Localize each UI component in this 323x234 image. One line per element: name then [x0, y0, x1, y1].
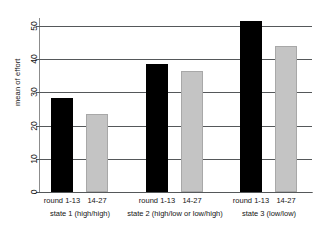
bar [275, 46, 297, 192]
x-tick-label-round: 14-27 [182, 196, 201, 205]
y-tick-label: 50 [30, 21, 39, 30]
plot-area: 01020304050 [40, 18, 312, 192]
x-group-label-state: state 3 (low/low) [242, 209, 296, 218]
bar [51, 98, 73, 192]
x-tick-label-round: round 1-13 [139, 196, 175, 205]
y-axis-title: mean of effort [13, 58, 22, 106]
x-group-label-state: state 1 (high/high) [50, 209, 110, 218]
gridline [40, 92, 312, 93]
y-tick-label: 10 [30, 154, 39, 163]
gridline [40, 192, 312, 193]
x-tick-label-round: round 1-13 [233, 196, 269, 205]
x-group-label-state: state 2 (high/low or low/high) [127, 209, 222, 218]
gridline [40, 59, 312, 60]
bar [146, 64, 168, 192]
bar [86, 114, 108, 192]
gridline [40, 126, 312, 127]
y-tick-label: 20 [30, 121, 39, 130]
bar [240, 21, 262, 192]
gridline [40, 159, 312, 160]
x-tick-label-round: 14-27 [276, 196, 295, 205]
gridline [40, 26, 312, 27]
x-tick-label-round: 14-27 [87, 196, 106, 205]
bar-chart: mean of effort 01020304050 round 1-1314-… [0, 0, 323, 234]
y-tick-label: 0 [30, 190, 39, 195]
y-tick-label: 30 [30, 88, 39, 97]
y-tick-label: 40 [30, 54, 39, 63]
bar [181, 71, 203, 193]
x-tick-label-round: round 1-13 [44, 196, 80, 205]
